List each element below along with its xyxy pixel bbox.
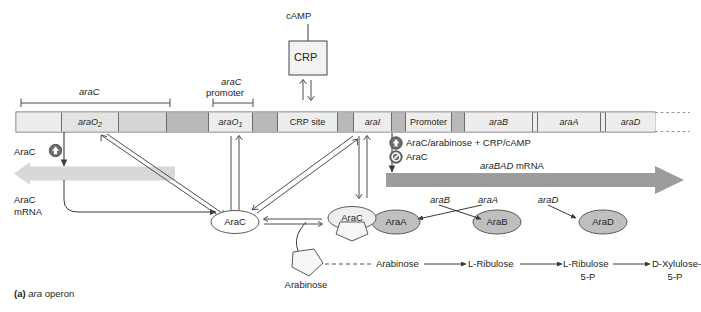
protein-label-araA: AraA [372, 216, 420, 227]
legend-repression-text: AraC [406, 151, 428, 162]
dna-segment-label-araO1: araO1 [210, 117, 251, 130]
dna-segment-label-promoter: Promoter [406, 117, 451, 127]
arac-gene-bracket-label: araC [79, 86, 100, 97]
legend-activation-text: AraC/arabinose + CRP/cAMP [406, 137, 531, 148]
arac-promoter-bracket [213, 99, 253, 108]
pathway-step-l-ribulose-5p-line2: 5-P [563, 271, 613, 282]
arac-binding-arao1-double-arrow [228, 135, 242, 215]
arac-activation-label: AraC [14, 146, 36, 157]
crp-binding-double-arrow [300, 79, 315, 100]
arac-arabinose-equilibrium-arrows [263, 216, 322, 226]
arac-gene-bracket [21, 99, 170, 108]
arac-mrna-label-line1: AraC [14, 194, 36, 205]
pathway-step-d-xylulose-5p-line2: 5-P [652, 271, 698, 282]
pathway-step-l-ribulose-5p-line1: L-Ribulose [563, 258, 608, 269]
arabad-mrna-label: araBAD mRNA [480, 160, 544, 171]
arac-araI-binding-double-arrow [252, 136, 358, 213]
arac-promoter-label-line1: araC [221, 76, 242, 87]
dna-segment-label-araB: araB [465, 117, 532, 127]
gene-label-araA: araA [468, 194, 508, 205]
pathway-step-arabinose: Arabinose [376, 258, 419, 269]
dna-segment-label-araO2: araO2 [64, 117, 116, 130]
arac-bound-oval-label: AraC [328, 212, 376, 223]
camp-label: cAMP [286, 10, 311, 21]
arac-free-oval-label: AraC [211, 216, 259, 227]
arac-translation-path [64, 180, 216, 212]
protein-label-araB: AraB [473, 216, 521, 227]
dna-segment-label-araA: araA [538, 117, 600, 127]
dna-segment-label-araD: araD [606, 117, 655, 127]
dna-segment-label-crp-site: CRP site [278, 117, 337, 127]
gene-label-araD: araD [528, 194, 568, 205]
arac-promoter-label-line2: promoter [206, 87, 244, 98]
crp-box-label: CRP [294, 52, 317, 63]
dna-segment-label-araI: araI [354, 117, 391, 127]
repression-icon [390, 151, 402, 163]
arac-mrna-label-line2: mRNA [14, 206, 42, 217]
pathway-step-d-xylulose-5p-line1: D-Xylulose- [652, 258, 701, 269]
pathway-step-l-ribulose: L-Ribulose [468, 258, 513, 269]
araD-to-protein-arrow [548, 205, 576, 218]
arabinose-molecule-label: Arabinose [278, 279, 334, 290]
activation-icon [390, 137, 402, 149]
figure-caption: (a) ara operon [14, 288, 74, 299]
protein-label-araD: AraD [579, 216, 627, 227]
gene-label-araB: araB [420, 194, 460, 205]
arabinose-molecule [292, 222, 323, 276]
arac-activation-icon [48, 143, 63, 158]
arac-mrna-arrow [14, 162, 175, 185]
